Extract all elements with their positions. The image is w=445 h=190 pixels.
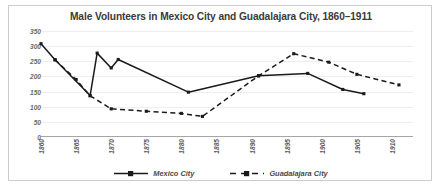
data-point-marker [341, 88, 344, 91]
x-axis-tick-label: 1875 [143, 139, 150, 154]
data-point-marker [117, 58, 120, 61]
x-axis-tick-label: 1910 [388, 139, 395, 154]
legend-label: Guadalajara City [269, 169, 327, 178]
chart-card: Male Volunteers in Mexico City and Guada… [8, 5, 432, 181]
data-point-marker [96, 52, 99, 55]
x-axis-baseline [41, 136, 413, 137]
x-axis-tick-label: 1880 [178, 139, 185, 154]
chart-title: Male Volunteers in Mexico City and Guada… [9, 11, 433, 22]
y-axis-tick-label: 50 [34, 118, 41, 125]
chart-legend: Mexico City Guadalajara City [9, 166, 433, 180]
data-point-marker [89, 94, 92, 97]
legend-item-guadalajara-city[interactable]: Guadalajara City [230, 169, 327, 178]
x-axis-tick-labels: 1860186518701875188018851890189519001905… [41, 139, 413, 169]
data-point-marker [75, 78, 78, 81]
data-point-marker [355, 73, 358, 76]
series-line-mexico-city [41, 44, 364, 96]
x-axis-tick-label: 1900 [318, 139, 325, 154]
x-axis-tick-label: 1860 [38, 139, 45, 154]
x-axis-tick-label: 1870 [108, 139, 115, 154]
x-axis-tick-label: 1865 [73, 139, 80, 154]
data-point-marker [145, 110, 148, 113]
y-axis-tick-label: 150 [30, 88, 41, 95]
data-point-marker [397, 83, 400, 86]
x-axis-tick-label: 1890 [248, 139, 255, 154]
data-point-marker [187, 91, 190, 94]
y-axis-tick-label: 100 [30, 103, 41, 110]
data-point-marker [53, 58, 56, 61]
data-point-marker [292, 52, 295, 55]
x-axis-tick-label: 1885 [213, 139, 220, 154]
y-axis-tick-label: 300 [30, 43, 41, 50]
legend-swatch-solid-square-icon [114, 169, 148, 178]
legend-item-mexico-city[interactable]: Mexico City [114, 169, 194, 178]
data-point-marker [180, 112, 183, 115]
data-point-marker [327, 61, 330, 64]
y-axis-tick-label: 350 [30, 28, 41, 35]
plot-area [41, 31, 413, 137]
data-point-marker [257, 74, 260, 77]
x-axis-tick-label: 1905 [353, 139, 360, 154]
x-axis-tick-label: 1895 [283, 139, 290, 154]
data-point-marker [306, 72, 309, 75]
data-point-marker [201, 115, 204, 118]
legend-swatch-dashed-square-icon [230, 169, 264, 178]
data-point-marker [39, 42, 42, 45]
y-axis-tick-label: 250 [30, 58, 41, 65]
y-axis-tick-labels: 050100150200250300350 [17, 31, 41, 137]
y-axis-tick-label: 200 [30, 73, 41, 80]
data-point-marker [110, 66, 113, 69]
data-point-marker [110, 107, 113, 110]
legend-label: Mexico City [153, 169, 194, 178]
data-point-marker [362, 92, 365, 95]
data-series-layer [41, 31, 413, 137]
